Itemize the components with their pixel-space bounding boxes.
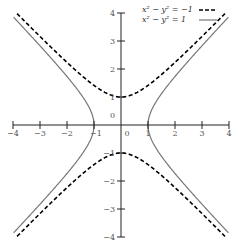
y-tick-label: −4 (103, 233, 115, 242)
legend: x² − y² = −1 x² − y² = 1 (142, 5, 217, 24)
x-tick-label: −4 (7, 129, 19, 138)
y-tick-label: −2 (103, 177, 115, 186)
x-tick-label: 1 (145, 129, 150, 138)
y-tick-label: 4 (110, 9, 115, 18)
legend-label-dashed: x² − y² = −1 (142, 5, 193, 14)
x-tick-label: −2 (61, 129, 73, 138)
x-tick-label: −1 (90, 129, 102, 138)
axes-layer: −4−3−2−101234−4−3−2−101234 (7, 9, 231, 242)
y-tick-label: −1 (103, 149, 115, 158)
hyperbola-chart: −4−3−2−101234−4−3−2−101234 x² − y² = −1 … (0, 0, 237, 251)
x-tick-label: 4 (226, 129, 231, 138)
y-tick-label: 3 (110, 37, 115, 46)
y-tick-label: 2 (110, 65, 115, 74)
x-tick-label: 3 (199, 129, 204, 138)
legend-label-solid: x² − y² = 1 (142, 15, 186, 24)
y-tick-label: 1 (110, 93, 115, 102)
y-tick-label: −3 (103, 205, 115, 214)
y-tick-label: 0 (110, 111, 115, 120)
x-tick-label: 2 (172, 129, 177, 138)
x-tick-label: −3 (34, 129, 46, 138)
x-tick-label: 0 (124, 129, 129, 138)
